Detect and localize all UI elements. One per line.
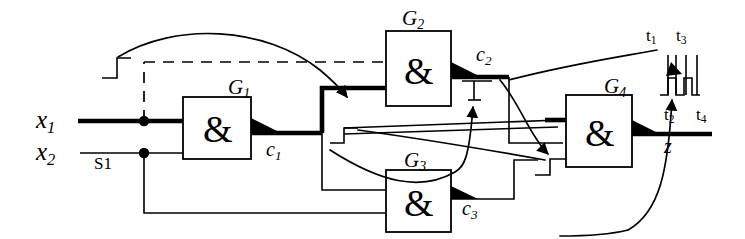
- label-timing-t4: t4: [696, 106, 707, 126]
- label-timing-t3: t3: [676, 27, 687, 47]
- wire-z-feedback-curve: [560, 230, 628, 236]
- timing-pulse-waveform: [660, 55, 700, 95]
- label-s1: S1: [94, 155, 112, 172]
- hazard-arrow-c2-to-timing: [509, 50, 657, 80]
- label-input-x2: x2: [36, 139, 55, 168]
- wire-c1-branch-to-g3: [322, 133, 386, 190]
- gate-G3-symbol: &: [404, 181, 434, 225]
- label-gate-G2: G2: [402, 8, 424, 32]
- label-timing-t2: t2: [664, 106, 675, 126]
- label-signal-c3: c3: [462, 198, 477, 221]
- waveform-marker-g2-input: [330, 128, 358, 143]
- gate-G2-symbol: &: [404, 49, 434, 93]
- gate-G1-symbol: &: [203, 107, 233, 151]
- waveform-marker-g4-input: [535, 159, 566, 175]
- gate-G4-symbol: &: [585, 111, 615, 155]
- wire-c2-output: [451, 77, 563, 143]
- label-gate-G3: G3: [404, 150, 426, 174]
- label-signal-c2: c2: [476, 44, 491, 67]
- label-gate-G4: G4: [604, 76, 626, 100]
- label-signal-z: z: [664, 136, 672, 156]
- circuit-schematic: [0, 0, 745, 239]
- label-gate-G1: G1: [228, 77, 250, 101]
- logic-circuit-figure: x1 x2 S1 G1 G2 G3 G4 & & & & c1 c2 c3 z …: [0, 0, 745, 239]
- label-signal-c1: c1: [266, 139, 281, 162]
- label-input-x1: x1: [36, 107, 55, 136]
- waveform-marker-c2: [462, 81, 492, 100]
- label-timing-t1: t1: [646, 27, 657, 47]
- waveform-marker-x1-step: [102, 58, 131, 78]
- wire-stub-to-g4-lower: [358, 130, 545, 160]
